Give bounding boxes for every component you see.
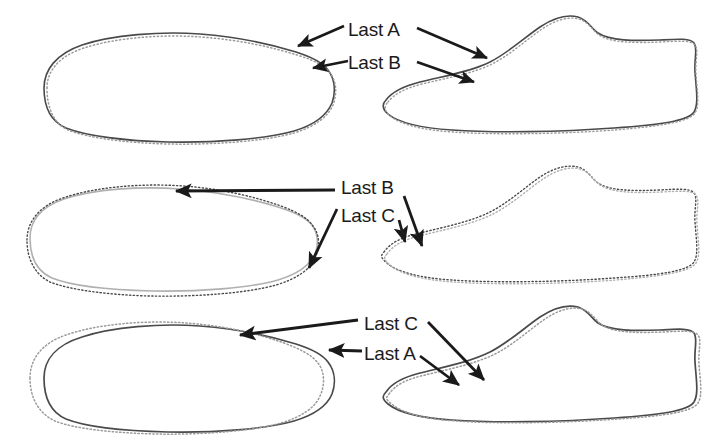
row2-plan-outline-dotted-c [27,185,319,296]
row3-arrow-c-left [240,320,358,335]
row3-arrow-a-left [329,350,362,351]
row1-arrow-a-right [417,28,487,58]
row2-label-last-b: Last B [341,177,394,198]
row3-plan-outline-solid-a [44,325,334,432]
row2-arrow-b-right [404,196,422,246]
row1-arrow-a-left [298,26,344,46]
row2-profile-view [382,166,699,284]
row2-plan-view [27,185,319,296]
row-1-group: Last A Last B [44,16,698,144]
row1-arrow-b-right [417,62,474,82]
row2-label-last-c: Last C [341,205,395,226]
row3-arrow-a-right [420,356,459,385]
row1-plan-view [44,33,336,144]
row2-arrow-b-left [176,190,335,191]
row1-label-last-a: Last A [348,19,400,40]
row-2-group: Last B Last C [27,166,699,296]
row3-label-last-c: Last C [364,313,418,334]
row1-plan-outline-dotted [47,36,336,144]
row1-label-last-b: Last B [348,52,401,73]
row3-arrow-c-right [428,322,484,380]
row3-label-last-a: Last A [364,343,416,364]
row2-arrow-c-left [309,209,337,268]
row1-plan-outline-solid [44,33,334,142]
row-3-group: Last C Last A [30,306,701,434]
shoe-last-comparison-figure: Last A Last B Last B Last C [0,0,723,438]
row3-plan-view [30,322,334,434]
row2-profile-outline-dotted-b [382,166,697,282]
figure-root: Last A Last B Last B Last C [0,0,723,438]
row2-profile-outline-dotted-c [385,168,699,284]
